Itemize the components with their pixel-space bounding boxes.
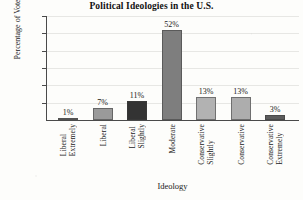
- bar-value-label: 52%: [152, 20, 192, 29]
- x-category-label-line: Liberal: [59, 124, 68, 156]
- y-tick-mark: [42, 33, 46, 34]
- x-category-label-line: Extremely: [275, 124, 284, 165]
- x-category-label-line: Liberal: [98, 124, 107, 146]
- x-category-label: ExtremelyLiberal: [53, 124, 83, 184]
- bar: [231, 97, 251, 120]
- bar-value-label: 3%: [255, 105, 295, 114]
- bar: [58, 118, 78, 121]
- x-category-label-line: Extremely: [68, 124, 77, 156]
- y-tick-mark: [42, 103, 46, 104]
- bar-value-label: 1%: [48, 108, 88, 117]
- x-category-label: ExtremelyConservative: [260, 124, 290, 184]
- x-axis-line: [46, 120, 299, 121]
- x-category-label: SlightlyLiberal: [122, 124, 152, 184]
- chart-title: Political Ideologies in the U.S.: [0, 1, 303, 11]
- y-tick-mark: [42, 85, 46, 86]
- bar-value-label: 13%: [221, 87, 261, 96]
- plot-area: 10%20%30%40%50%60% 1%7%11%52%13%13%3%: [46, 16, 299, 121]
- bar-value-label: 11%: [117, 91, 157, 100]
- bar-slot: 13%: [191, 16, 221, 120]
- x-category-label: Moderate: [157, 124, 187, 184]
- x-category-label: Liberal: [88, 124, 118, 184]
- bar: [162, 30, 182, 120]
- bar-slot: 52%: [157, 16, 187, 120]
- x-category-label-line: Slightly: [137, 124, 146, 149]
- bar-slot: 11%: [122, 16, 152, 120]
- y-tick-mark: [42, 16, 46, 17]
- bar: [196, 97, 216, 120]
- bar-slot: 7%: [88, 16, 118, 120]
- y-tick-mark: [42, 51, 46, 52]
- bar-slot: 3%: [260, 16, 290, 120]
- y-axis-title: Percentage of Voters: [13, 0, 22, 82]
- bar: [93, 108, 113, 120]
- x-axis-title: Ideology: [46, 181, 299, 191]
- x-category-label-line: Slightly: [206, 124, 215, 165]
- chart-screenshot: Political Ideologies in the U.S. Percent…: [0, 0, 303, 200]
- x-category-label-line: Conservative: [266, 124, 275, 165]
- bar: [265, 115, 285, 120]
- x-category-label: SlightlyConservative: [191, 124, 221, 184]
- x-category-label-line: Moderate: [167, 124, 176, 154]
- x-category-label-line: Conservative: [236, 124, 245, 165]
- bar-slot: 1%: [53, 16, 83, 120]
- x-category-label-line: Liberal: [128, 124, 137, 149]
- x-category-label: Conservative: [226, 124, 256, 184]
- y-tick-mark: [42, 68, 46, 69]
- bar-slot: 13%: [226, 16, 256, 120]
- bar: [127, 101, 147, 120]
- x-category-label-line: Conservative: [197, 124, 206, 165]
